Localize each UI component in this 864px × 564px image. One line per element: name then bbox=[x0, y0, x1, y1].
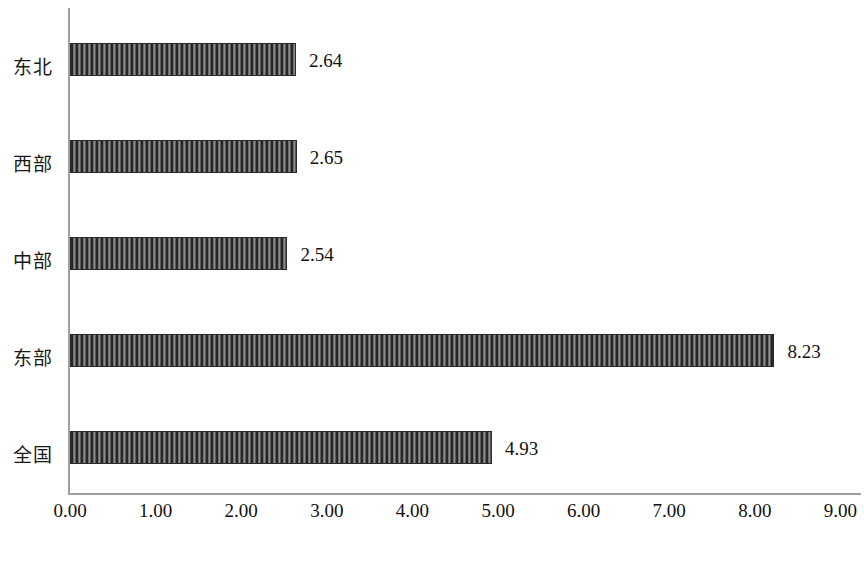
bar-4 bbox=[70, 431, 492, 464]
bar-row: 中部 2.54 bbox=[0, 204, 864, 301]
bar-value-label-1: 2.65 bbox=[310, 148, 343, 167]
bar-value-label-3: 8.23 bbox=[787, 342, 820, 361]
bar-row: 西部 2.65 bbox=[0, 107, 864, 204]
category-label-3: 东部 bbox=[4, 349, 62, 368]
bar-row: 东部 8.23 bbox=[0, 301, 864, 398]
bar-value-label-0: 2.64 bbox=[309, 51, 342, 70]
x-tick-label-4: 4.00 bbox=[377, 501, 447, 520]
bar-value-label-2: 2.54 bbox=[300, 245, 333, 264]
category-label-2: 中部 bbox=[4, 252, 62, 271]
bar-0 bbox=[70, 43, 296, 76]
category-label-4: 全国 bbox=[4, 446, 62, 465]
bar-3 bbox=[70, 334, 774, 367]
x-tick-label-9: 9.00 bbox=[805, 501, 864, 520]
bar-value-label-4: 4.93 bbox=[505, 439, 538, 458]
x-tick-label-2: 2.00 bbox=[206, 501, 276, 520]
x-tick-label-5: 5.00 bbox=[463, 501, 533, 520]
category-label-0: 东北 bbox=[4, 58, 62, 77]
bar-row: 东北 2.64 bbox=[0, 10, 864, 107]
plot-area: 东北 2.64 西部 2.65 中部 2.54 东部 8.23 全国 4.93 bbox=[0, 0, 864, 564]
x-tick-label-1: 1.00 bbox=[121, 501, 191, 520]
x-tick-label-6: 6.00 bbox=[549, 501, 619, 520]
x-tick-label-0: 0.00 bbox=[35, 501, 105, 520]
bar-row: 全国 4.93 bbox=[0, 398, 864, 495]
bar-chart: 东北 2.64 西部 2.65 中部 2.54 东部 8.23 全国 4.93 bbox=[0, 0, 864, 564]
bar-1 bbox=[70, 140, 297, 173]
x-tick-label-7: 7.00 bbox=[634, 501, 704, 520]
x-tick-label-3: 3.00 bbox=[292, 501, 362, 520]
bar-2 bbox=[70, 237, 287, 270]
x-tick-label-8: 8.00 bbox=[720, 501, 790, 520]
category-label-1: 西部 bbox=[4, 155, 62, 174]
